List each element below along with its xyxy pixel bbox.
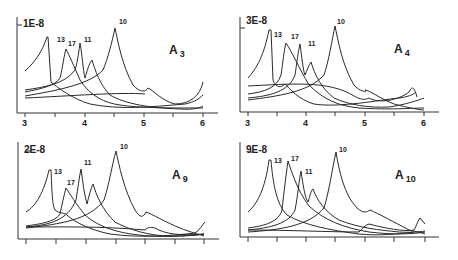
panel-a9: 2E-8 13 17 11 10 A9 [0,130,229,260]
y-scale-label: 2E-8 [24,145,45,155]
y-scale-label: 9E-8 [246,145,267,155]
panel-a3: 1E-8 13 17 11 10 A3 3 4 5 6 [0,0,229,130]
peak-label-13: 13 [54,168,62,175]
peak-label-10: 10 [119,18,127,25]
panel-title: A4 [394,43,410,58]
curves [26,151,205,236]
peak-label-17: 17 [67,179,75,186]
peak-label-11: 11 [84,159,91,166]
curve-extra [248,84,417,101]
x-tick-label: 4 [303,119,308,128]
peak-label-11: 11 [308,40,315,47]
peak-label-10: 10 [120,143,128,150]
x-tick-label: 3 [22,119,27,128]
panel-a4: 3E-8 13 17 11 10 A4 3 4 5 6 [229,0,458,130]
panel-a10: 9E-8 13 17 11 10 A10 [229,130,458,260]
peak-label-17: 17 [291,155,299,162]
x-tick-label: 5 [362,119,367,128]
peak-label-13: 13 [274,31,282,38]
panel-title: A3 [169,44,185,59]
curves [248,26,424,110]
peak-label-13: 13 [57,36,65,43]
curve-10 [25,28,203,104]
curve-10 [248,26,424,110]
x-tick-label: 4 [82,119,87,128]
peak-label-17: 17 [291,33,299,40]
peak-label-11: 11 [84,36,91,43]
curve-extra [25,93,145,98]
curves [248,152,425,235]
curves [25,28,203,109]
panel-title: A10 [395,169,416,184]
y-scale-label: 1E-8 [23,19,44,29]
x-tick-label: 5 [141,119,146,128]
peak-label-11: 11 [305,168,312,175]
panel-title: A9 [172,169,188,184]
peak-label-10: 10 [337,18,345,25]
x-tick-label: 6 [421,119,426,128]
peak-label-17: 17 [68,40,76,47]
axes [240,17,439,116]
y-scale-label: 3E-8 [246,16,267,26]
peak-label-13: 13 [274,157,282,164]
peak-label-10: 10 [339,146,347,153]
curve-13 [248,160,414,235]
x-tick-label: 6 [200,119,205,128]
curve-10 [248,152,425,234]
x-tick-label: 3 [245,119,250,128]
